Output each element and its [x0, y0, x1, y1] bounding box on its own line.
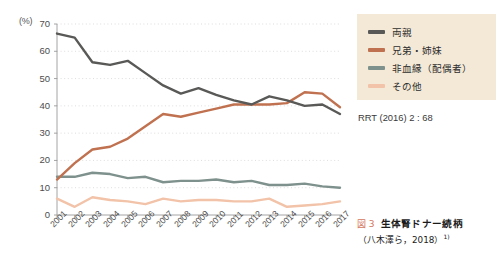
y-tick-label: 0 — [24, 209, 50, 220]
caption-figure-number: 図 3 — [357, 217, 375, 230]
legend-item-label: 兄弟・姉妹 — [392, 43, 442, 57]
caption-superscript: 1) — [443, 233, 449, 240]
source-note: RRT (2016) 2 : 68 — [358, 112, 433, 123]
y-tick-label: 60 — [24, 45, 50, 56]
legend-item: 兄弟・姉妹 — [368, 43, 442, 57]
legend-item-label: その他 — [392, 79, 422, 93]
caption-title: 生体腎ドナー続柄 — [381, 216, 463, 230]
y-tick-label: 10 — [24, 182, 50, 193]
figure-root: (%) 010203040506070 20012002200320042005… — [0, 0, 501, 262]
legend-item-label: 両親 — [392, 25, 412, 39]
legend-item-label: 非血縁（配偶者） — [392, 61, 472, 75]
legend-item: その他 — [368, 79, 422, 93]
axis-lines — [57, 24, 342, 215]
figure-caption: 図 3 生体腎ドナー続柄 （八木澤ら，2018）1) — [357, 216, 501, 246]
y-tick-label: 30 — [24, 127, 50, 138]
caption-subtitle: （八木澤ら，2018）1) — [358, 233, 501, 246]
y-tick-label: 20 — [24, 154, 50, 165]
legend-item: 両親 — [368, 25, 412, 39]
legend-color-swatch — [368, 84, 385, 88]
y-tick-label: 40 — [24, 100, 50, 111]
legend-item: 非血縁（配偶者） — [368, 61, 472, 75]
y-tick-label: 50 — [24, 73, 50, 84]
legend-color-swatch — [368, 66, 385, 70]
data-series-group — [57, 34, 340, 207]
legend-color-swatch — [368, 48, 385, 52]
legend-color-swatch — [368, 30, 385, 34]
chart-area: (%) 010203040506070 20012002200320042005… — [0, 0, 352, 262]
gridlines — [57, 24, 340, 188]
legend: 両親兄弟・姉妹非血縁（配偶者）その他 — [357, 14, 496, 100]
tick-marks — [54, 24, 340, 218]
y-tick-label: 70 — [24, 18, 50, 29]
caption-subtitle-text: （八木澤ら，2018） — [358, 235, 443, 245]
